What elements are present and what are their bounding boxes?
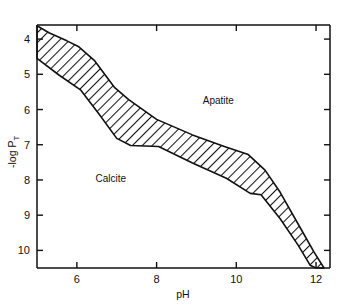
x-tick-label: 6	[74, 273, 80, 285]
y-tick-label: 4	[24, 33, 30, 45]
region-label-apatite: Apatite	[203, 95, 235, 106]
region-label-calcite: Calcite	[95, 173, 126, 184]
y-tick-label: 6	[24, 104, 30, 116]
y-tick-label: 10	[18, 244, 30, 256]
x-tick-label: 10	[230, 273, 242, 285]
stability-diagram-svg: 68101245678910 pH -log PT ApatiteCalcite	[0, 0, 346, 307]
x-axis-title: pH	[176, 288, 189, 300]
x-tick-label: 12	[310, 273, 322, 285]
y-axis-title-subscript: T	[12, 136, 21, 141]
y-tick-label: 7	[24, 139, 30, 151]
chart-figure: 68101245678910 pH -log PT ApatiteCalcite	[0, 0, 346, 307]
y-axis-title-main: -log P	[6, 141, 18, 168]
x-tick-label: 8	[154, 273, 160, 285]
y-tick-label: 9	[24, 209, 30, 221]
y-tick-label: 5	[24, 68, 30, 80]
y-tick-label: 8	[24, 174, 30, 186]
